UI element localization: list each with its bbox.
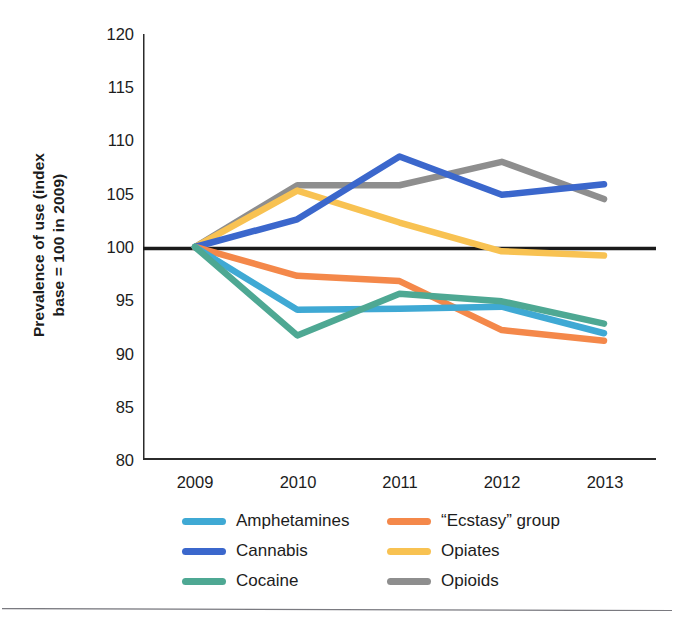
y-axis-title: Prevalence of use (index base = 100 in 2… xyxy=(16,90,82,400)
legend-item-ecstasy-group[interactable]: “Ecstasy” group xyxy=(387,511,632,531)
y-axis-title-line-1: Prevalence of use (index xyxy=(29,153,49,337)
y-tick-label-90: 90 xyxy=(88,346,134,363)
legend-label-cannabis: Cannabis xyxy=(236,541,308,561)
y-tick-label-95: 95 xyxy=(88,292,134,309)
legend-item-cannabis[interactable]: Cannabis xyxy=(182,541,387,561)
legend-label-opiates: Opiates xyxy=(441,541,500,561)
legend-item-opioids[interactable]: Opioids xyxy=(387,571,632,591)
legend-item-opiates[interactable]: Opiates xyxy=(387,541,632,561)
legend-label-cocaine: Cocaine xyxy=(236,571,298,591)
legend-item-cocaine[interactable]: Cocaine xyxy=(182,571,387,591)
y-axis-title-line-2: base = 100 in 2009) xyxy=(49,153,69,337)
series-line-amphetamines xyxy=(195,247,604,333)
chart-figure: Prevalence of use (index base = 100 in 2… xyxy=(0,0,674,626)
legend-label-opioids: Opioids xyxy=(441,571,499,591)
legend-label-ecstasy-group: “Ecstasy” group xyxy=(441,511,560,531)
series-line-opioids xyxy=(195,162,604,247)
legend-swatch-cannabis xyxy=(182,548,226,555)
chart-legend: Amphetamines “Ecstasy” group Cannabis Op… xyxy=(182,506,632,596)
x-tick-label-2011: 2011 xyxy=(360,474,440,491)
y-tick-label-80: 80 xyxy=(88,452,134,469)
series-line-cannabis xyxy=(195,156,604,247)
y-tick-label-110: 110 xyxy=(88,132,134,149)
legend-item-amphetamines[interactable]: Amphetamines xyxy=(182,511,387,531)
plot-area xyxy=(143,34,656,460)
series-line-opiates xyxy=(195,191,604,256)
chart-plot-svg xyxy=(143,34,656,460)
legend-swatch-amphetamines xyxy=(182,518,226,525)
y-tick-label-105: 105 xyxy=(88,186,134,203)
y-tick-label-100: 100 xyxy=(88,239,134,256)
legend-label-amphetamines: Amphetamines xyxy=(236,511,349,531)
series-line-cocaine xyxy=(195,247,604,335)
page-separator-rule xyxy=(0,608,674,611)
legend-swatch-opiates xyxy=(387,548,431,555)
x-tick-label-2013: 2013 xyxy=(565,474,645,491)
legend-swatch-ecstasy-group xyxy=(387,518,431,525)
y-tick-label-115: 115 xyxy=(88,79,134,96)
legend-swatch-cocaine xyxy=(182,578,226,585)
y-tick-label-120: 120 xyxy=(88,26,134,43)
legend-swatch-opioids xyxy=(387,578,431,585)
x-tick-label-2010: 2010 xyxy=(258,474,338,491)
y-tick-label-85: 85 xyxy=(88,399,134,416)
x-tick-label-2009: 2009 xyxy=(155,474,235,491)
x-tick-label-2012: 2012 xyxy=(462,474,542,491)
